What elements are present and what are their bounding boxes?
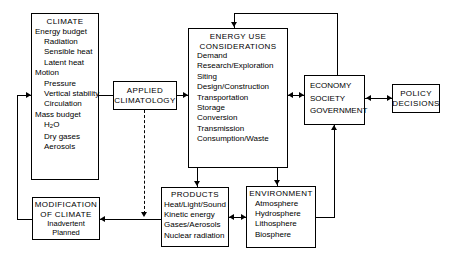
climate-title: CLIMATE bbox=[32, 17, 98, 27]
arrowhead-products-left bbox=[229, 214, 234, 220]
arrowhead-into-economy-bottom bbox=[331, 125, 337, 130]
climate-item-radiation: Radiation bbox=[35, 37, 98, 47]
connector-feedback-up bbox=[17, 95, 18, 220]
energy-item-transportation: Transportation bbox=[197, 93, 287, 103]
environment-item-biosphere: Biosphere bbox=[255, 230, 315, 240]
energy-use-title: ENERGY USE CONSIDERATIONS bbox=[189, 32, 287, 51]
connector-environment-up-to-economy bbox=[334, 125, 335, 218]
economy-item-list: ECONOMY SOCIETY GOVERNMENT bbox=[310, 80, 364, 118]
energy-item-siting: Siting bbox=[197, 72, 287, 82]
connector-modification-left bbox=[17, 219, 32, 220]
climate-item-energy-budget: Energy budget bbox=[35, 27, 98, 37]
climate-item-pressure: Pressure bbox=[35, 79, 98, 89]
environment-item-lithosphere: Lithosphere bbox=[255, 219, 315, 229]
arrowhead-policy-left bbox=[366, 95, 371, 101]
economy-item-economy: ECONOMY bbox=[310, 80, 364, 93]
box-policy-decisions[interactable]: POLICY DECISIONS bbox=[392, 84, 440, 113]
modification-item-planned: Planned bbox=[33, 228, 99, 237]
environment-item-list: Atmosphere Hydrosphere Lithosphere Biosp… bbox=[247, 199, 315, 241]
box-applied-climatology[interactable]: APPLIED CLIMATOLOGY bbox=[113, 81, 177, 110]
connector-environment-right bbox=[316, 217, 334, 218]
connector-climate-to-applied bbox=[99, 95, 113, 96]
box-economy-society-government[interactable]: ECONOMY SOCIETY GOVERNMENT bbox=[304, 75, 365, 125]
policy-decisions-title: POLICY DECISIONS bbox=[392, 89, 440, 108]
environment-title: ENVIRONMENT bbox=[247, 189, 315, 199]
arrowhead-into-modification bbox=[100, 216, 105, 222]
arrowhead-into-energy-top bbox=[231, 22, 237, 27]
climate-item-latent-heat: Latent heat bbox=[35, 58, 98, 68]
products-title: PRODUCTS bbox=[162, 190, 228, 200]
connector-products-to-modification bbox=[100, 219, 161, 220]
climate-item-dry-gases: Dry gases bbox=[35, 132, 98, 142]
modification-title: MODIFICATION OF CLIMATE bbox=[33, 200, 99, 219]
box-energy-use-considerations[interactable]: ENERGY USE CONSIDERATIONS Demand Researc… bbox=[188, 28, 288, 168]
energy-item-transmission: Transmission bbox=[197, 124, 287, 134]
climate-item-list: Energy budget Radiation Sensible heat La… bbox=[32, 27, 98, 153]
box-environment[interactable]: ENVIRONMENT Atmosphere Hydrosphere Litho… bbox=[246, 186, 316, 248]
products-item-gases-aerosols: Gases/Aerosols bbox=[164, 220, 228, 230]
connector-applied-dashed-down bbox=[144, 110, 145, 214]
box-climate[interactable]: CLIMATE Energy budget Radiation Sensible… bbox=[31, 13, 99, 180]
economy-item-society: SOCIETY bbox=[310, 93, 364, 106]
arrowhead-into-products bbox=[194, 181, 200, 186]
modification-item-inadvertent: Inadvertent bbox=[33, 219, 99, 228]
climate-item-circulation: Circulation bbox=[35, 99, 98, 109]
products-item-heat-light-sound: Heat/Light/Sound bbox=[164, 200, 228, 210]
climate-item-aerosols: Aerosols bbox=[35, 142, 98, 152]
energy-use-item-list: Demand Research/Exploration Siting Desig… bbox=[189, 51, 287, 145]
box-modification-of-climate[interactable]: MODIFICATION OF CLIMATE Inadvertent Plan… bbox=[32, 197, 100, 240]
climate-item-water: H2O bbox=[35, 120, 98, 131]
products-item-list: Heat/Light/Sound Kinetic energy Gases/Ae… bbox=[162, 200, 228, 242]
energy-item-storage: Storage bbox=[197, 103, 287, 113]
energy-item-conversion: Conversion bbox=[197, 113, 287, 123]
connector-economy-up bbox=[337, 13, 338, 75]
economy-item-government: GOVERNMENT bbox=[310, 105, 364, 118]
energy-item-demand: Demand bbox=[197, 51, 287, 61]
climate-item-sensible-heat: Sensible heat bbox=[35, 47, 98, 57]
applied-climatology-title: APPLIED CLIMATOLOGY bbox=[114, 86, 175, 105]
products-item-kinetic-energy: Kinetic energy bbox=[164, 210, 228, 220]
arrowhead-dashed-down bbox=[141, 212, 147, 217]
environment-item-atmosphere: Atmosphere bbox=[255, 199, 315, 209]
connector-top-horizontal bbox=[234, 13, 338, 14]
climate-item-vertical-stability: Vertical stability bbox=[35, 89, 98, 99]
climate-item-mass-budget: Mass budget bbox=[35, 110, 98, 120]
products-item-nuclear-radiation: Nuclear radiation bbox=[164, 231, 228, 241]
energy-item-research-exploration: Research/Exploration bbox=[197, 61, 287, 71]
energy-item-design-construction: Design/Construction bbox=[197, 82, 287, 92]
arrowhead-energy-left bbox=[288, 92, 293, 98]
diagram-canvas: CLIMATE Energy budget Radiation Sensible… bbox=[0, 0, 456, 267]
environment-item-hydrosphere: Hydrosphere bbox=[255, 209, 315, 219]
energy-item-consumption-waste: Consumption/Waste bbox=[197, 134, 287, 144]
climate-item-motion: Motion bbox=[35, 68, 98, 78]
box-products[interactable]: PRODUCTS Heat/Light/Sound Kinetic energy… bbox=[161, 187, 229, 247]
arrowhead-into-environment bbox=[274, 180, 280, 185]
